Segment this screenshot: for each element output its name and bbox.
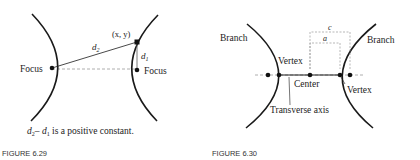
- left-focus-dot: [266, 73, 271, 78]
- d2-label: d2: [92, 42, 100, 53]
- point-xy-label: (x, y): [112, 29, 131, 39]
- statement-text: d2– d1 is a positive constant.: [27, 126, 134, 137]
- left-vertex-dot: [277, 73, 282, 78]
- right-branch-label: Branch: [367, 35, 395, 45]
- left-vertex-label: Vertex: [278, 56, 303, 66]
- right-vertex-label: Vertex: [347, 85, 372, 95]
- figure-panel: Focus Focus (x, y) d2 d1 d2– d1 is a pos…: [0, 0, 420, 160]
- center-label: Center: [294, 79, 320, 89]
- center-dot: [308, 73, 313, 78]
- left-focus-label: Focus: [20, 64, 43, 74]
- d1-label: d1: [141, 51, 149, 62]
- a-bracket: [310, 43, 340, 69]
- figure-6-29: Focus Focus (x, y) d2 d1 d2– d1 is a pos…: [2, 14, 167, 158]
- right-focus-label: Focus: [144, 66, 167, 76]
- a-label: a: [323, 34, 327, 43]
- right-focus-dot: [348, 73, 353, 78]
- right-focus-dot: [135, 68, 140, 73]
- point-xy-marker: [135, 40, 140, 45]
- figure-6-30: c a Branch Branch Vertex Center Vertex T…: [212, 23, 395, 158]
- figure-caption-6-29: FIGURE 6.29: [2, 149, 47, 158]
- left-focus-dot: [50, 66, 55, 71]
- hyperbola-diagrams: Focus Focus (x, y) d2 d1 d2– d1 is a pos…: [0, 0, 420, 160]
- figure-caption-6-30: FIGURE 6.30: [212, 149, 257, 158]
- c-label: c: [328, 23, 332, 32]
- transverse-axis-leader: [289, 77, 290, 105]
- transverse-axis-label: Transverse axis: [270, 105, 329, 115]
- right-vertex-dot: [338, 73, 343, 78]
- left-branch-label: Branch: [220, 33, 248, 43]
